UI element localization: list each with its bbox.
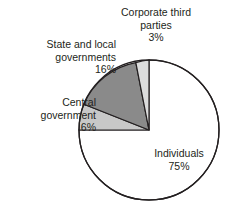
label-corporate-line1: Corporate third <box>104 6 208 19</box>
pie-chart-figure: Corporate third parties 3% State and loc… <box>0 0 238 217</box>
label-central-line1: Central <box>2 96 96 109</box>
label-state-and-local-governments: State and local governments 16% <box>14 38 116 76</box>
label-central-government: Central government 6% <box>2 96 96 134</box>
label-central-percent: 6% <box>2 121 96 134</box>
label-state-line2: governments <box>14 51 116 64</box>
label-individuals-line1: Individuals <box>139 147 219 160</box>
label-individuals: Individuals 75% <box>139 147 219 172</box>
label-corporate-third-parties: Corporate third parties 3% <box>104 6 208 44</box>
label-corporate-percent: 3% <box>104 31 208 44</box>
label-state-percent: 16% <box>14 63 116 76</box>
label-central-line2: government <box>2 109 96 122</box>
label-individuals-percent: 75% <box>139 160 219 173</box>
label-corporate-line2: parties <box>104 19 208 32</box>
label-state-line1: State and local <box>14 38 116 51</box>
